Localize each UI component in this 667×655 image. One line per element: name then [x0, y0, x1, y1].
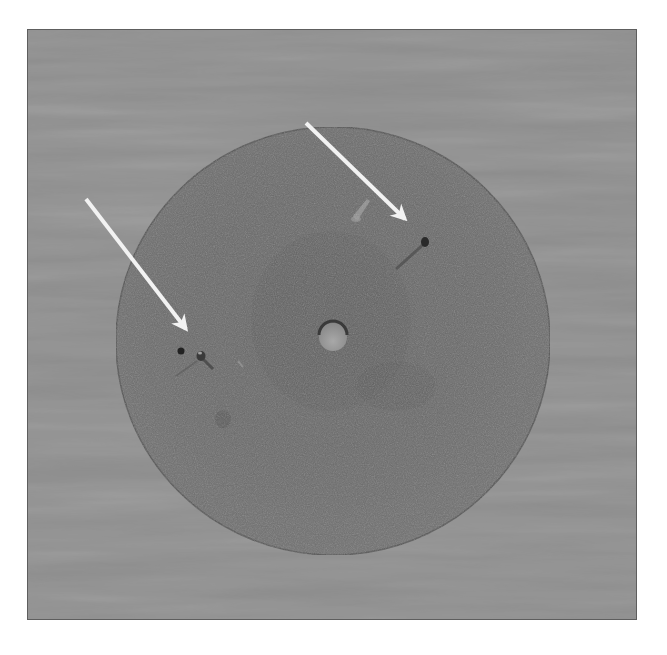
photo-frame: [27, 29, 637, 620]
disc-photograph: [28, 30, 637, 620]
